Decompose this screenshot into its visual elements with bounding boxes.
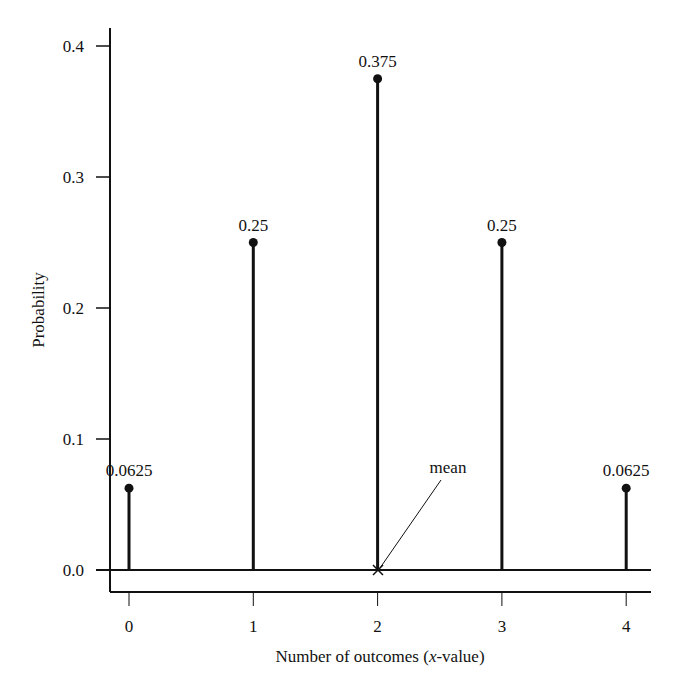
stem-marker xyxy=(622,484,631,493)
value-label: 0.25 xyxy=(487,216,517,235)
value-label: 0.0625 xyxy=(106,461,153,480)
y-axis-title: Probability xyxy=(29,272,48,348)
x-axis-title: Number of outcomes (x-value) xyxy=(275,647,484,666)
stem-marker xyxy=(125,484,134,493)
x-tick-label: 4 xyxy=(622,617,631,636)
y-tick-label: 0.4 xyxy=(63,37,85,56)
stems: 0.06250.250.3750.250.0625 xyxy=(106,52,650,570)
mean-leader-line xyxy=(380,480,441,568)
x-tick-label: 1 xyxy=(249,617,258,636)
probability-stem-chart: 0.00.10.20.30.4 01234 0.06250.250.3750.2… xyxy=(0,0,681,695)
stem-marker xyxy=(497,238,506,247)
y-tick-label: 0.2 xyxy=(63,299,84,318)
x-tick-label: 0 xyxy=(125,617,134,636)
x-ticks: 01234 xyxy=(125,592,631,636)
y-tick-label: 0.1 xyxy=(63,430,84,449)
mean-label: mean xyxy=(430,458,467,477)
mean-annotation: mean xyxy=(373,458,467,575)
value-label: 0.375 xyxy=(358,52,396,71)
y-tick-label: 0.3 xyxy=(63,168,84,187)
stem-marker xyxy=(373,74,382,83)
value-label: 0.0625 xyxy=(603,461,650,480)
y-ticks: 0.00.10.20.30.4 xyxy=(63,37,110,580)
stem-marker xyxy=(249,238,258,247)
value-label: 0.25 xyxy=(238,216,268,235)
x-tick-label: 2 xyxy=(373,617,382,636)
x-tick-label: 3 xyxy=(498,617,507,636)
y-tick-label: 0.0 xyxy=(63,561,84,580)
